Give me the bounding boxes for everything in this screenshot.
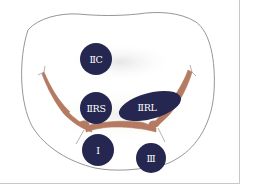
svg-text:Ⅰ: Ⅰ <box>96 145 100 156</box>
zone-diagram: ⅡC ⅡRS ⅡRL Ⅰ Ⅲ <box>0 0 253 191</box>
zone-I: Ⅰ <box>82 134 114 166</box>
svg-text:ⅡRS: ⅡRS <box>86 103 105 114</box>
svg-text:Ⅲ: Ⅲ <box>147 153 156 164</box>
zone-IIC: ⅡC <box>80 43 112 75</box>
svg-text:ⅡRL: ⅡRL <box>137 102 157 113</box>
svg-text:ⅡC: ⅡC <box>89 54 102 65</box>
zone-III: Ⅲ <box>136 143 166 173</box>
zone-IIRS: ⅡRS <box>80 92 112 124</box>
